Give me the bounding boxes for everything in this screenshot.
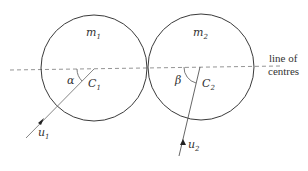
centre-label-1: C1 [88,77,101,92]
line-of-centres-label-1: line of [269,52,298,64]
angle-label-beta: β [174,74,181,87]
velocity-label-2: u2 [188,138,200,153]
angle-label-alpha: α [67,74,75,87]
angle-arc-alpha [77,69,82,81]
centre-label-2: C2 [202,77,215,92]
arrow-icon-u1 [38,118,44,125]
velocity-line-1 [26,69,94,138]
mass-label-2: m2 [193,26,208,41]
angle-arc-beta [184,67,196,83]
arrow-icon-u2 [180,139,186,145]
collision-diagram: m1 α C1 u1 m2 β C2 u2 line of centres [0,0,308,171]
line-of-centres-label-2: centres [268,65,299,77]
velocity-label-1: u1 [38,126,50,141]
line-of-centres [10,66,280,70]
mass-label-1: m1 [86,26,101,41]
